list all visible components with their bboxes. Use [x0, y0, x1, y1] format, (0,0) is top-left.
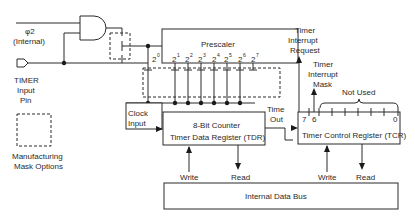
- prescaler-select-mask: [143, 68, 280, 97]
- clock-input: Clock Input: [126, 103, 163, 132]
- timeout-label-1: Time: [267, 105, 285, 114]
- timer-interrupt-request: Timer Interrupt Request: [288, 26, 321, 112]
- clock-label-1: Clock: [128, 109, 149, 118]
- counter-tdr-block: 8-Bit Counter Timer Data Register (TDR): [163, 112, 266, 145]
- tdr-bus-connections: Write Read: [180, 145, 250, 182]
- tcr-block: 7 6 0 Timer Control Register (TCR): [298, 108, 406, 144]
- tcr-title: Timer Control Register (TCR): [302, 131, 406, 140]
- svg-text:7: 7: [256, 52, 259, 58]
- bus-label: Internal Data Bus: [245, 192, 307, 201]
- tdr-read-label: Read: [231, 173, 250, 182]
- phi2-input: φ2 (Internal): [13, 23, 80, 46]
- svg-text:5: 5: [229, 52, 232, 58]
- timer-label: TIMER: [14, 76, 39, 85]
- tcr-write-label: Write: [318, 173, 337, 182]
- tir-label-3: Request: [290, 46, 321, 55]
- counter-title: 8-Bit Counter: [193, 121, 240, 130]
- read-arrow-icon: [359, 163, 365, 170]
- not-used-label: Not Used: [342, 88, 375, 97]
- not-used-brace: Not Used: [320, 88, 398, 108]
- time-out-signal: Time Out: [265, 105, 298, 140]
- prescaler-block: Prescaler 20 21 22 23 24 25 26 27: [152, 29, 298, 64]
- tdr-write-label: Write: [180, 173, 199, 182]
- legend-line2: Mask Options: [14, 162, 63, 171]
- timer-block-diagram: φ2 (Internal) TIMER Input Pin Manufactur…: [0, 0, 415, 217]
- phi2-sub-label: (Internal): [13, 37, 45, 46]
- tim-label-1: Timer: [313, 60, 333, 69]
- tcr-bit6: 6: [312, 115, 317, 124]
- timer-label-input: Input: [17, 86, 36, 95]
- tir-label-2: Interrupt: [288, 36, 319, 45]
- clock-label-2: Input: [128, 119, 147, 128]
- svg-text:3: 3: [203, 52, 206, 58]
- svg-text:6: 6: [243, 52, 246, 58]
- svg-text:0: 0: [157, 52, 160, 58]
- phi2-label: φ2: [25, 27, 35, 36]
- prescaler-title: Prescaler: [201, 40, 235, 49]
- tcr-bit0: 0: [393, 115, 398, 124]
- timeout-label-2: Out: [270, 115, 284, 124]
- mask-options-legend: Manufacturing Mask Options: [12, 114, 63, 171]
- internal-data-bus: Internal Data Bus: [164, 183, 398, 209]
- tcr-read-label: Read: [356, 173, 375, 182]
- legend-line1: Manufacturing: [12, 152, 63, 161]
- prescaler-tap-lines: [126, 63, 257, 105]
- tdr-title: Timer Data Register (TDR): [170, 133, 266, 142]
- svg-text:4: 4: [217, 52, 220, 58]
- tim-label-3: Mask: [313, 80, 333, 89]
- up-arrow-icon: [311, 88, 317, 95]
- svg-text:2: 2: [190, 52, 193, 58]
- timer-interrupt-mask: Timer Interrupt Mask: [308, 60, 339, 112]
- tcr-bit7: 7: [302, 115, 307, 124]
- read-arrow-icon: [235, 163, 241, 170]
- timer-label-pin: Pin: [20, 96, 32, 105]
- tir-label-1: Timer: [295, 26, 315, 35]
- timer-input-pin: TIMER Input Pin: [14, 59, 148, 105]
- tim-label-2: Interrupt: [308, 70, 339, 79]
- tcr-bus-connections: Write Read: [318, 144, 375, 182]
- and-gate-icon: [80, 16, 106, 40]
- svg-text:1: 1: [177, 52, 180, 58]
- write-arrow-icon: [324, 145, 330, 152]
- write-arrow-icon: [186, 146, 192, 153]
